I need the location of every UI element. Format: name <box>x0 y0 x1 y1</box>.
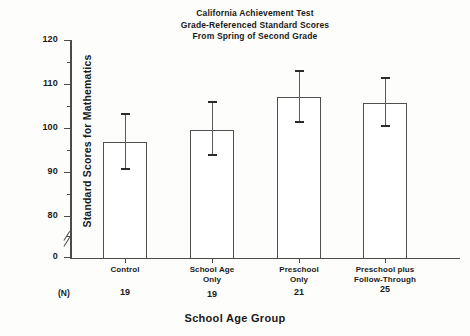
y-tick-minor-78 <box>67 236 71 237</box>
chart-title-line-1: California Achievement Test <box>150 8 360 20</box>
error-bar-cap-upper-school-age-only <box>208 101 217 103</box>
x-tick-control <box>125 258 126 263</box>
y-tick-label-120: 120 <box>18 34 58 44</box>
error-bar-line-preschool-only <box>299 71 300 122</box>
y-axis-title: Standard Scores for Mathematics <box>81 1 93 281</box>
x-axis-label-preschool-plus-follow-through-line-1: Preschool plus <box>325 265 445 275</box>
error-bar-line-preschool-plus-follow-through <box>385 78 386 127</box>
x-tick-school-age-only <box>212 258 213 263</box>
chart-title-line-2: Grade-Referenced Standard Scores <box>150 20 360 32</box>
y-tick-label-80: 80 <box>18 210 58 220</box>
y-tick-80 <box>64 216 70 217</box>
y-tick-100 <box>64 128 70 129</box>
y-tick-90 <box>64 172 70 173</box>
n-value-preschool-plus-follow-through: 25 <box>325 284 445 294</box>
y-tick-0 <box>64 257 70 258</box>
error-bar-cap-upper-control <box>121 113 130 115</box>
error-bar-cap-lower-preschool-only <box>295 121 304 123</box>
error-bar-line-school-age-only <box>212 102 213 156</box>
error-bar-cap-lower-preschool-plus-follow-through <box>381 125 390 127</box>
y-tick-minor-115 <box>67 62 71 63</box>
y-tick-120 <box>64 40 70 41</box>
y-tick-label-0: 0 <box>18 251 58 261</box>
x-tick-preschool-only <box>299 258 300 263</box>
chart-title: California Achievement Test Grade-Refere… <box>150 8 360 43</box>
y-tick-minor-105 <box>67 106 71 107</box>
y-tick-110 <box>64 84 70 85</box>
error-bar-cap-upper-preschool-only <box>295 70 304 72</box>
error-bar-cap-lower-control <box>121 168 130 170</box>
y-tick-minor-95 <box>67 150 71 151</box>
y-tick-label-100: 100 <box>18 122 58 132</box>
chart-figure: California Achievement Test Grade-Refere… <box>0 0 470 336</box>
x-axis-label-preschool-plus-follow-through: Preschool plus Follow-Through <box>325 265 445 285</box>
y-tick-minor-85 <box>67 194 71 195</box>
plot-area: Standard Scores for Mathematics 120 110 … <box>70 40 460 258</box>
x-axis-title: School Age Group <box>135 312 335 324</box>
x-tick-preschool-plus-follow-through <box>385 258 386 263</box>
y-tick-label-110: 110 <box>18 78 58 88</box>
y-tick-label-90: 90 <box>18 166 58 176</box>
error-bar-cap-upper-preschool-plus-follow-through <box>381 77 390 79</box>
error-bar-line-control <box>125 114 126 170</box>
error-bar-cap-lower-school-age-only <box>208 154 217 156</box>
